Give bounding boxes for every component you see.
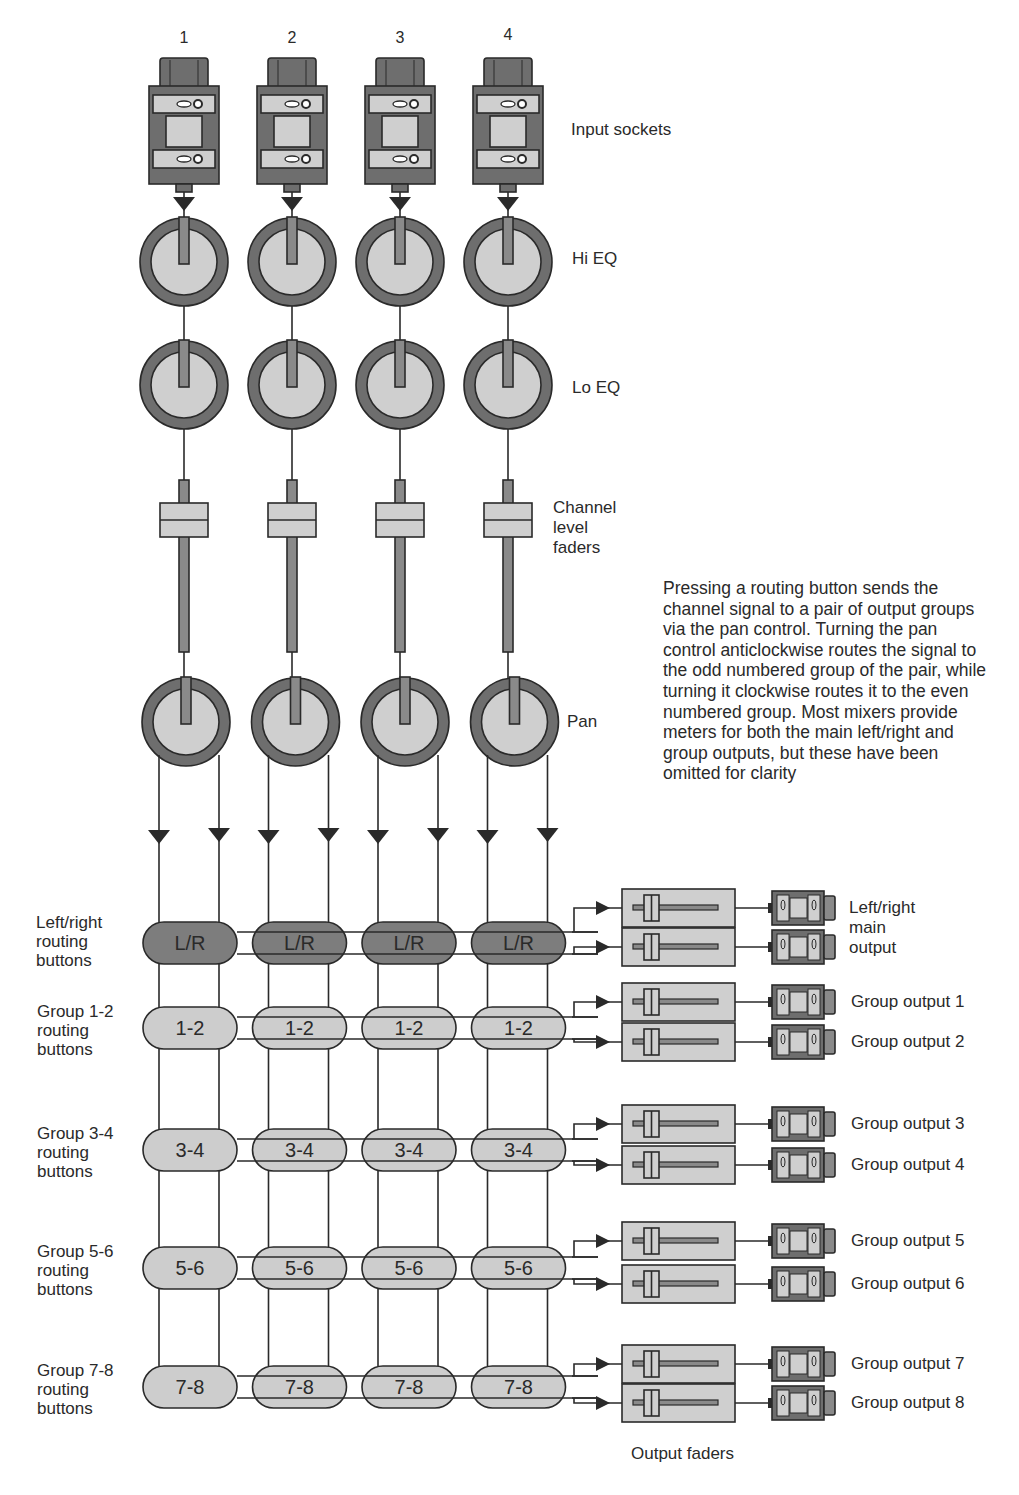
output-fader[interactable] — [622, 889, 735, 927]
socket-slot — [177, 156, 191, 162]
input-socket[interactable] — [257, 58, 327, 211]
routing-button-1-2[interactable]: 1-2 — [143, 1007, 237, 1049]
group-output-label: Group output 5 — [851, 1231, 964, 1251]
socket-slot — [285, 156, 299, 162]
routing-button-lr[interactable]: L/R — [362, 922, 456, 964]
channel-fader[interactable] — [484, 480, 532, 652]
arrow-right-icon — [596, 901, 610, 915]
routing-button-5-6[interactable]: 5-6 — [253, 1247, 347, 1289]
socket-slot — [285, 101, 299, 107]
routing-button-1-2[interactable]: 1-2 — [253, 1007, 347, 1049]
arrow-right-icon — [596, 995, 610, 1009]
output-fader[interactable] — [622, 928, 735, 966]
channel-fader[interactable] — [160, 480, 208, 652]
hi-eq-knob[interactable] — [356, 217, 444, 306]
pan-knob[interactable] — [252, 677, 340, 766]
lo-eq-knob[interactable] — [464, 340, 552, 429]
routing-button-7-8[interactable]: 7-8 — [253, 1366, 347, 1408]
output-socket[interactable] — [735, 930, 835, 964]
output-socket[interactable] — [735, 1148, 835, 1182]
socket-slot — [393, 101, 407, 107]
input-socket[interactable] — [473, 58, 543, 211]
arrow-down-icon — [258, 830, 280, 844]
routing-button-label: 7-8 — [504, 1376, 533, 1398]
routing-button-label: 1-2 — [285, 1017, 314, 1039]
group-output-label: Group output 3 — [851, 1114, 964, 1134]
output-socket[interactable] — [735, 1386, 835, 1420]
routing-button-label: 7-8 — [395, 1376, 424, 1398]
routing-button-lr[interactable]: L/R — [253, 922, 347, 964]
routing-button-7-8[interactable]: 7-8 — [472, 1366, 566, 1408]
output-fader[interactable] — [622, 1222, 735, 1260]
routing-button-label: 3-4 — [285, 1139, 314, 1161]
socket-slot — [177, 101, 191, 107]
pan-knob[interactable] — [142, 677, 230, 766]
routing-button-1-2[interactable]: 1-2 — [362, 1007, 456, 1049]
channel-fader[interactable] — [376, 480, 424, 652]
routing-button-5-6[interactable]: 5-6 — [472, 1247, 566, 1289]
arrow-down-icon — [427, 828, 449, 842]
output-pair-3 — [572, 1105, 835, 1184]
output-fader[interactable] — [622, 1384, 735, 1422]
output-socket[interactable] — [735, 1107, 835, 1141]
routing-button-7-8[interactable]: 7-8 — [143, 1366, 237, 1408]
output-socket-nut — [824, 1112, 835, 1136]
arrow-right-icon — [596, 1277, 610, 1291]
routing-button-label: 7-8 — [285, 1376, 314, 1398]
lo-eq-knob[interactable] — [140, 340, 228, 429]
routing-button-5-6[interactable]: 5-6 — [362, 1247, 456, 1289]
routing-button-label: 1-2 — [504, 1017, 533, 1039]
lo-eq-knob[interactable] — [356, 340, 444, 429]
routing-button-3-4[interactable]: 3-4 — [362, 1129, 456, 1171]
routing-button-3-4[interactable]: 3-4 — [253, 1129, 347, 1171]
lo-eq-knob[interactable] — [248, 340, 336, 429]
input-socket[interactable] — [365, 58, 435, 211]
output-fader[interactable] — [622, 1023, 735, 1061]
routing-button-lr[interactable]: L/R — [472, 922, 566, 964]
pan-knob[interactable] — [471, 677, 559, 766]
socket-pin — [194, 155, 202, 163]
routing-button-label: 3-4 — [504, 1139, 533, 1161]
output-fader[interactable] — [622, 1146, 735, 1184]
socket-pin — [302, 155, 310, 163]
routing-button-label: 3-4 — [395, 1139, 424, 1161]
routing-button-1-2[interactable]: 1-2 — [472, 1007, 566, 1049]
arrow-down-icon — [367, 830, 389, 844]
group-output-label: Group output 1 — [851, 992, 964, 1012]
arrow-right-icon — [596, 940, 610, 954]
socket-slot — [501, 156, 515, 162]
routing-button-lr[interactable]: L/R — [143, 922, 237, 964]
socket-nut — [268, 58, 316, 88]
output-socket[interactable] — [735, 891, 835, 925]
output-socket[interactable] — [735, 1224, 835, 1258]
channel-number-2: 2 — [277, 28, 307, 48]
output-pair-2 — [572, 983, 835, 1061]
output-socket[interactable] — [735, 985, 835, 1019]
output-fader[interactable] — [622, 1265, 735, 1303]
knob-pointer — [287, 340, 297, 387]
output-fader[interactable] — [622, 983, 735, 1021]
socket-nut — [376, 58, 424, 88]
output-socket[interactable] — [735, 1267, 835, 1301]
pan-knob[interactable] — [361, 677, 449, 766]
routing-button-7-8[interactable]: 7-8 — [362, 1366, 456, 1408]
channel-number-3: 3 — [385, 28, 415, 48]
group-output-label: Group output 2 — [851, 1032, 964, 1052]
routing-button-5-6[interactable]: 5-6 — [143, 1247, 237, 1289]
output-fader[interactable] — [622, 1105, 735, 1143]
socket-pin — [518, 100, 526, 108]
output-fader[interactable] — [622, 1345, 735, 1383]
routing-button-3-4[interactable]: 3-4 — [472, 1129, 566, 1171]
socket-face — [166, 116, 202, 147]
hi-eq-knob[interactable] — [140, 217, 228, 306]
routing-button-label: L/R — [174, 932, 205, 954]
group-output-label: Group output 8 — [851, 1393, 964, 1413]
input-socket[interactable] — [149, 58, 219, 211]
hi-eq-knob[interactable] — [464, 217, 552, 306]
output-socket-nut — [824, 935, 835, 959]
channel-fader[interactable] — [268, 480, 316, 652]
hi-eq-knob[interactable] — [248, 217, 336, 306]
routing-button-3-4[interactable]: 3-4 — [143, 1129, 237, 1171]
output-socket[interactable] — [735, 1347, 835, 1381]
output-socket[interactable] — [735, 1025, 835, 1059]
